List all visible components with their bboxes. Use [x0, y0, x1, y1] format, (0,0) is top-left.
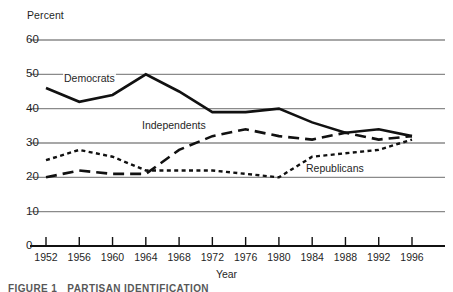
y-tick-label: 10 — [26, 206, 46, 218]
series-label-democrats: Democrats — [63, 73, 116, 84]
y-axis-title: Percent — [27, 9, 64, 21]
series-label-independents: Independents — [141, 120, 207, 131]
x-tick-label: 1980 — [267, 252, 290, 263]
x-tick-label: 1964 — [134, 252, 157, 263]
y-tick-label: 30 — [26, 137, 46, 149]
x-tick-label: 1984 — [300, 252, 323, 263]
x-axis-title: Year — [0, 268, 453, 280]
figure-partisan-identification: Percent 6050403020100 195219561960196419… — [0, 0, 453, 292]
y-tick-label: 40 — [26, 103, 46, 115]
x-tick-label: 1996 — [400, 252, 423, 263]
x-tick-label: 1972 — [201, 252, 224, 263]
x-tick-label: 1988 — [334, 252, 357, 263]
line-chart-plot — [0, 0, 453, 292]
gridlines-group — [30, 40, 445, 212]
figure-caption: FIGURE 1PARTISAN IDENTIFICATION — [8, 283, 209, 292]
x-tick-label: 1976 — [234, 252, 257, 263]
figure-caption-title: PARTISAN IDENTIFICATION — [67, 283, 209, 292]
series-label-republicans: Republicans — [305, 163, 365, 174]
x-tick-label: 1956 — [68, 252, 91, 263]
x-tick-label: 1968 — [167, 252, 190, 263]
y-tick-label: 60 — [26, 34, 46, 46]
y-tick-label: 50 — [26, 69, 46, 81]
y-tick-label: 20 — [26, 172, 46, 184]
x-tick-marks-group — [46, 237, 412, 245]
x-tick-label: 1960 — [101, 252, 124, 263]
x-tick-label: 1992 — [367, 252, 390, 263]
figure-caption-number: FIGURE 1 — [8, 283, 57, 292]
x-tick-label: 1952 — [34, 252, 57, 263]
